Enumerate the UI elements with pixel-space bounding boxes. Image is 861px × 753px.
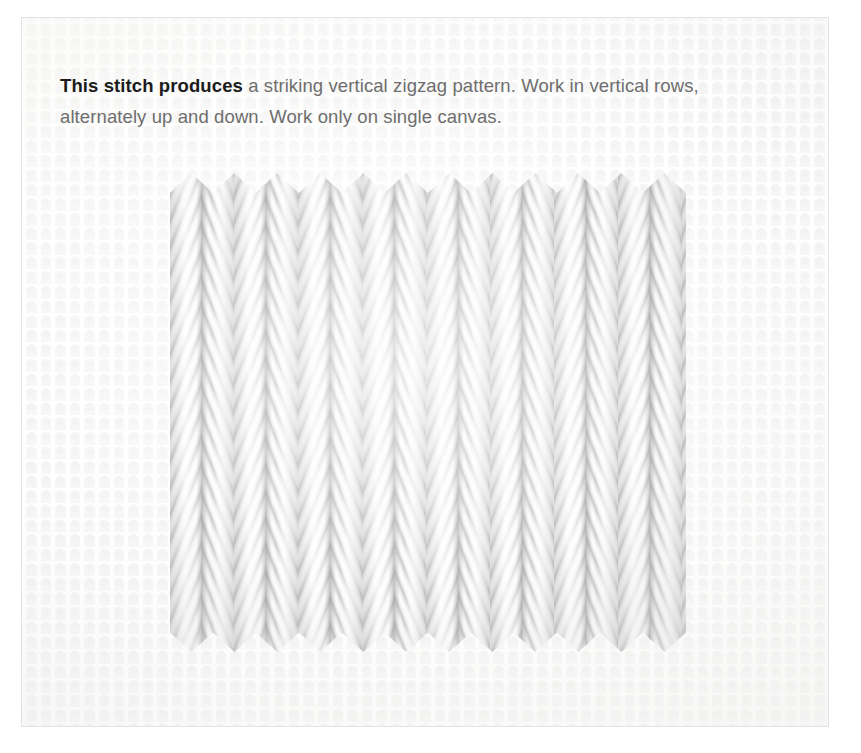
- stitch-instruction-caption: This stitch produces a striking vertical…: [60, 70, 800, 132]
- caption-line-1: This stitch produces a striking vertical…: [60, 70, 800, 101]
- caption-lead-in: This stitch produces: [60, 75, 243, 96]
- zigzag-stitch-swatch: [170, 168, 686, 656]
- caption-line-1-rest: a striking vertical zigzag pattern. Work…: [243, 75, 699, 96]
- stitch-sample-figure: This stitch produces a striking vertical…: [22, 18, 828, 726]
- caption-line-2: alternately up and down. Work only on si…: [60, 101, 800, 132]
- stitch-body: [170, 168, 686, 656]
- chevron-lighting-overlay: [170, 168, 686, 656]
